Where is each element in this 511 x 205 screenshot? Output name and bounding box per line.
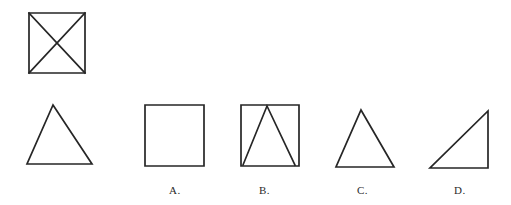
options-row: A. B. C. D. — [0, 95, 511, 205]
option-a-label: A. — [169, 185, 181, 196]
option-d-label: D. — [454, 185, 466, 196]
inscribed-triangle — [243, 106, 295, 165]
prompt-row — [0, 0, 511, 95]
option-d-right-triangle-figure[interactable] — [425, 106, 495, 176]
square-outline — [145, 105, 204, 166]
right-triangle-outline — [430, 111, 488, 168]
option-c-triangle-figure[interactable] — [331, 105, 401, 175]
option-b-square-with-triangle-figure[interactable] — [236, 100, 306, 170]
prompt-square-with-diagonals-figure — [24, 8, 90, 78]
option-c-label: C. — [357, 185, 368, 196]
option-b-label: B. — [259, 185, 270, 196]
option-a-square-figure[interactable] — [140, 100, 210, 170]
triangle-outline — [336, 110, 394, 167]
question-sheet: A. B. C. D. — [0, 0, 511, 205]
